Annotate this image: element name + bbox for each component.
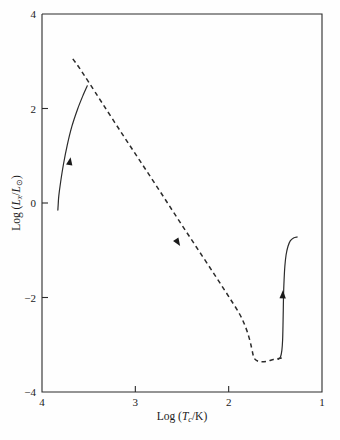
x-tick-label: 2: [226, 396, 232, 408]
direction-arrow: [66, 157, 74, 166]
direction-arrow: [279, 290, 286, 298]
y-axis-tick-labels: 420−2−4: [24, 8, 36, 398]
chart-canvas: 4321 420−2−4 Log (Tc/K) Log (Lx/L⊙): [0, 0, 340, 440]
x-tick-label: 4: [39, 396, 45, 408]
x-axis-tick-labels: 4321: [39, 396, 325, 408]
x-tick-label: 3: [133, 396, 139, 408]
y-axis-tick-marks: [42, 109, 48, 298]
y-tick-label: 0: [31, 197, 37, 209]
svg-text:Log (Lx/L⊙): Log (Lx/L⊙): [10, 175, 24, 231]
y-axis-title: Log (Lx/L⊙): [10, 175, 24, 231]
y-tick-label: −2: [24, 292, 36, 304]
direction-arrow: [173, 238, 183, 248]
y-tick-label: −4: [24, 386, 36, 398]
x-axis-title: Log (Tc/K): [157, 410, 208, 424]
direction-arrows-group: [66, 157, 286, 299]
figure-container: 4321 420−2−4 Log (Tc/K) Log (Lx/L⊙): [0, 0, 340, 440]
plot-frame: [42, 14, 322, 392]
x-axis-tick-marks: [135, 386, 228, 392]
x-tick-label: 1: [319, 396, 325, 408]
data-series-group: [58, 59, 297, 362]
series-cooling-track: [73, 59, 283, 362]
svg-text:Log (Tc/K): Log (Tc/K): [157, 410, 208, 424]
y-tick-label: 2: [31, 103, 37, 115]
series-contraction-branch: [58, 86, 87, 210]
y-tick-label: 4: [31, 8, 37, 20]
